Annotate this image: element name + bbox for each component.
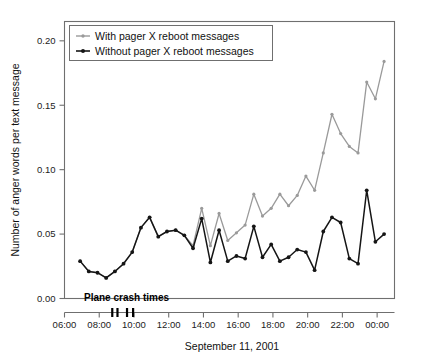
x-tick-label: 00:00 — [365, 319, 389, 330]
data-point-without-reboot — [278, 259, 282, 263]
x-tick-label: 20:00 — [296, 319, 320, 330]
data-point-without-reboot — [356, 262, 360, 266]
data-point-without-reboot — [313, 268, 317, 272]
x-tick-label: 22:00 — [331, 319, 355, 330]
legend-item-without[interactable]: Without pager X reboot messages — [76, 45, 254, 57]
data-point-with-reboot — [235, 231, 238, 234]
data-point-without-reboot — [295, 248, 299, 252]
data-point-without-reboot — [156, 235, 160, 239]
data-point-with-reboot — [313, 189, 316, 192]
data-point-without-reboot — [382, 232, 386, 236]
data-point-with-reboot — [304, 175, 307, 178]
series-line-with-reboot — [80, 61, 384, 277]
data-point-without-reboot — [304, 250, 308, 254]
data-point-without-reboot — [113, 270, 117, 274]
data-point-without-reboot — [148, 215, 152, 219]
x-tick-label: 16:00 — [226, 319, 250, 330]
data-point-with-reboot — [287, 204, 290, 207]
x-tick-label: 06:00 — [53, 319, 77, 330]
chart-legend[interactable]: With pager X reboot messages Without pag… — [70, 26, 273, 61]
data-point-without-reboot — [365, 188, 369, 192]
data-point-with-reboot — [382, 60, 385, 63]
data-point-without-reboot — [226, 259, 230, 263]
data-point-with-reboot — [226, 239, 229, 242]
data-point-without-reboot — [122, 262, 126, 266]
data-point-without-reboot — [235, 254, 239, 258]
data-point-without-reboot — [373, 240, 377, 244]
data-point-without-reboot — [252, 224, 256, 228]
plot-frame — [65, 22, 395, 299]
data-point-without-reboot — [243, 257, 247, 261]
x-axis-title: September 11, 2001 — [185, 340, 280, 352]
data-point-with-reboot — [270, 207, 273, 210]
data-point-without-reboot — [330, 215, 334, 219]
x-tick-label: 08:00 — [87, 319, 111, 330]
legend-swatch-without-marker — [81, 49, 85, 53]
data-point-without-reboot — [130, 250, 134, 254]
data-point-without-reboot — [200, 217, 204, 221]
y-tick-label: 0.05 — [37, 228, 56, 239]
x-tick-label: 12:00 — [157, 319, 181, 330]
y-axis-title: Number of anger words per text message — [9, 63, 21, 256]
chart-figure: 0.000.050.100.150.20 06:0008:0010:0012:0… — [0, 0, 448, 361]
anger-words-line-chart: 0.000.050.100.150.20 06:0008:0010:0012:0… — [0, 0, 448, 361]
series-group — [78, 60, 386, 280]
y-tick-label: 0.20 — [37, 35, 56, 46]
data-point-with-reboot — [296, 194, 299, 197]
legend-swatch-with-marker — [81, 34, 84, 37]
data-point-without-reboot — [87, 270, 91, 274]
data-point-without-reboot — [174, 228, 178, 232]
x-tick-label: 14:00 — [192, 319, 216, 330]
data-point-without-reboot — [321, 230, 325, 234]
data-point-without-reboot — [217, 228, 221, 232]
x-tick-label: 18:00 — [261, 319, 285, 330]
data-point-without-reboot — [347, 257, 351, 261]
data-point-with-reboot — [244, 223, 247, 226]
data-point-with-reboot — [252, 193, 255, 196]
data-point-with-reboot — [200, 207, 203, 210]
data-point-with-reboot — [365, 80, 368, 83]
y-tick-label: 0.10 — [37, 164, 56, 175]
data-point-without-reboot — [165, 230, 169, 234]
y-tick-label: 0.15 — [37, 100, 56, 111]
legend-label-with: With pager X reboot messages — [95, 30, 239, 42]
data-point-without-reboot — [182, 233, 186, 237]
data-point-with-reboot — [348, 145, 351, 148]
data-point-without-reboot — [78, 259, 82, 263]
data-point-without-reboot — [139, 226, 143, 230]
y-tick-label: 0.00 — [37, 293, 56, 304]
data-point-with-reboot — [356, 151, 359, 154]
x-axis: 06:0008:0010:0012:0014:0016:0018:0020:00… — [53, 313, 395, 331]
x-tick-label: 10:00 — [122, 319, 146, 330]
plane-crash-times-label: Plane crash times — [84, 292, 169, 303]
data-point-without-reboot — [269, 242, 273, 246]
legend-item-with[interactable]: With pager X reboot messages — [76, 30, 239, 42]
data-point-with-reboot — [322, 151, 325, 154]
legend-label-without: Without pager X reboot messages — [95, 45, 254, 57]
data-point-with-reboot — [217, 212, 220, 215]
data-point-without-reboot — [261, 255, 265, 259]
data-point-with-reboot — [330, 113, 333, 116]
data-point-without-reboot — [96, 271, 100, 275]
data-point-with-reboot — [374, 97, 377, 100]
series-line-without-reboot — [80, 190, 384, 278]
y-axis: 0.000.050.100.150.20 — [37, 35, 65, 304]
data-point-without-reboot — [191, 246, 195, 250]
data-point-without-reboot — [287, 255, 291, 259]
data-point-with-reboot — [339, 132, 342, 135]
data-point-without-reboot — [339, 221, 343, 225]
data-point-without-reboot — [208, 261, 212, 265]
data-point-without-reboot — [104, 276, 108, 280]
data-point-with-reboot — [209, 244, 212, 247]
data-point-with-reboot — [261, 214, 264, 217]
data-point-with-reboot — [278, 193, 281, 196]
